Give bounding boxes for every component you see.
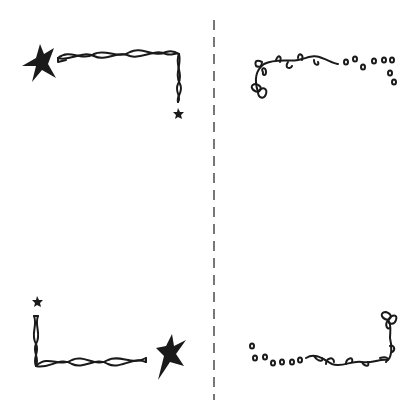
vine-border-bottom-right <box>306 312 396 366</box>
small-star-icon <box>173 108 184 119</box>
leaf-icon <box>255 61 262 67</box>
dot-trail-top-right <box>344 57 396 85</box>
vine-border-top-right <box>252 54 338 97</box>
star-icon <box>156 334 186 380</box>
rope-border-top-left <box>58 50 181 102</box>
dot-trail-bottom-right <box>250 344 302 366</box>
leaf-icon <box>388 316 396 324</box>
leaf-icon <box>262 68 266 75</box>
small-star-icon <box>32 296 43 307</box>
leaf-icon <box>258 88 266 97</box>
star-icon <box>22 44 56 82</box>
leaf-icon <box>287 62 292 68</box>
doodle-canvas <box>0 0 412 410</box>
leaf-icon <box>314 60 318 65</box>
rope-border-bottom-left <box>34 316 146 367</box>
